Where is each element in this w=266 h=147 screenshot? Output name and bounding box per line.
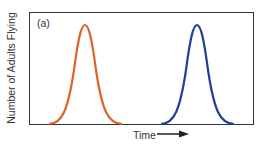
x-axis-label: Time [133, 129, 156, 141]
panel-label: (a) [37, 17, 50, 29]
time-arrow-icon [157, 131, 189, 138]
orange-curve [49, 25, 122, 124]
y-axis-label-text: Number of Adults Flying [5, 12, 17, 123]
y-axis-label: Number of Adults Flying [2, 12, 20, 124]
plot-frame [30, 13, 254, 125]
blue-curve [161, 25, 234, 124]
